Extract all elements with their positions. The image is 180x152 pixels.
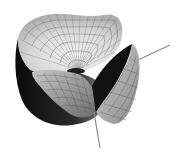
axis-line-right: [138, 45, 170, 60]
surface-render: [0, 0, 180, 152]
axis-line-bottom: [94, 112, 100, 148]
